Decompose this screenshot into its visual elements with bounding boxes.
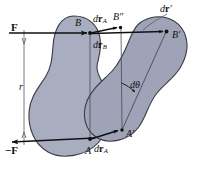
label-point-B-prime: B′ [172, 30, 180, 40]
point-dot-Bdoubleprime [119, 26, 122, 29]
label-d-r-A-top: drA [93, 14, 107, 25]
r-vector-glyph: r [98, 39, 102, 50]
label-point-B: B [75, 18, 81, 28]
point-dot-Aprime [120, 128, 123, 131]
point-dot-Bprime [165, 30, 169, 34]
subscript-A: A [104, 147, 108, 154]
r-vector-glyph: r [99, 143, 103, 154]
r-vector-glyph: r [98, 13, 102, 24]
point-dot-B [88, 31, 92, 35]
label-point-A: A [85, 146, 91, 156]
label-point-B-double-prime: B″ [113, 12, 123, 22]
label-d-r-A-bottom: drA [94, 144, 108, 155]
point-dot-A [88, 137, 92, 141]
label-d-r-B: drB [93, 40, 107, 51]
prime-glyph: ′ [169, 3, 171, 14]
label-force-top: F [11, 22, 18, 33]
subscript-B: B [103, 43, 107, 50]
label-d-r-prime: dr′ [160, 4, 172, 14]
label-point-A-prime: A′ [126, 129, 134, 139]
label-distance-r: r [19, 82, 23, 92]
label-d-theta: dθ [130, 80, 140, 90]
subscript-A: A [103, 17, 107, 24]
label-force-bottom: −F [5, 145, 18, 156]
